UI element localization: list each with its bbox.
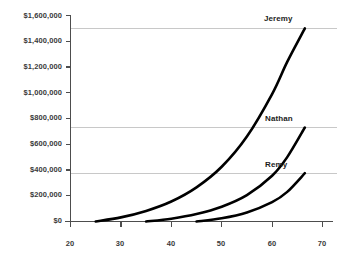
ytick-label-400000: $400,000	[4, 165, 62, 174]
xtick-label-30: 30	[106, 239, 134, 248]
series-label-jeremy: Jeremy	[264, 14, 293, 23]
series-curve-jeremy	[96, 28, 305, 221]
ytick-label-200000: $200,000	[4, 190, 62, 199]
xtick-label-70: 70	[308, 239, 336, 248]
ytick-label-0: $0	[4, 216, 62, 225]
ytick-label-800000: $800,000	[4, 113, 62, 122]
xtick-label-50: 50	[207, 239, 235, 248]
ytick-label-1000000: $1,000,000	[4, 88, 62, 97]
xtick-label-40: 40	[157, 239, 185, 248]
xtick-label-20: 20	[56, 239, 84, 248]
series-curves	[96, 28, 305, 221]
ytick-label-1600000: $1,600,000	[4, 11, 62, 20]
series-curve-remy	[197, 173, 305, 221]
exponential-growth-chart: $1,600,000 $1,400,000 $1,200,000 $1,000,…	[0, 0, 341, 263]
ytick-label-600000: $600,000	[4, 139, 62, 148]
ytick-label-1200000: $1,200,000	[4, 62, 62, 71]
xtick-label-60: 60	[258, 239, 286, 248]
series-label-remy: Remy	[265, 160, 287, 169]
ytick-label-1400000: $1,400,000	[4, 36, 62, 45]
series-label-nathan: Nathan	[265, 114, 293, 123]
series-curve-nathan	[146, 128, 305, 222]
gridlines	[71, 28, 338, 173]
